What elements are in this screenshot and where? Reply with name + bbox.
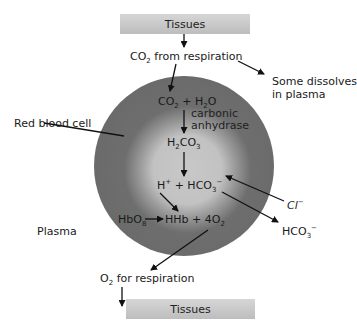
- rbc-pointer-line: [44, 123, 124, 136]
- arrow-to-plasma: [238, 61, 264, 74]
- arrow-chloride-in: [226, 176, 284, 201]
- arrow-bicarbonate-out: [222, 192, 278, 222]
- arrow-h-to-hhb: [160, 193, 178, 211]
- arrow-o2-out: [151, 230, 208, 270]
- arrow-co2-into-cell: [170, 64, 176, 91]
